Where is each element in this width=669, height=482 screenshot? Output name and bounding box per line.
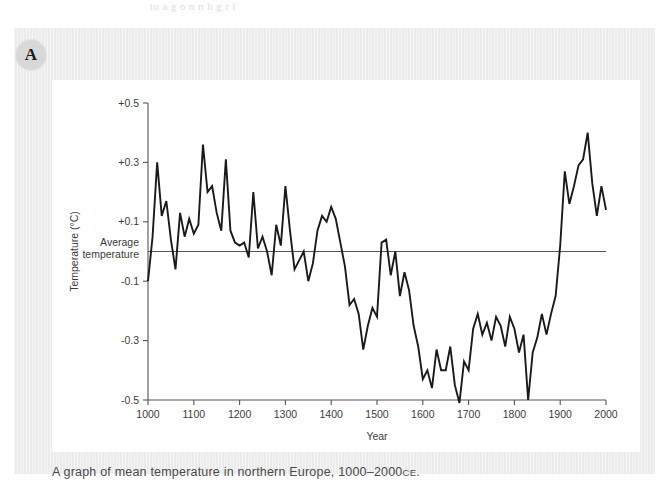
temperature-series-line [148,133,606,403]
average-temperature-annotation-line1: Average [100,236,139,248]
y-axis-tick-label: +0.3 [118,156,139,168]
y-axis-tick-label: +0.5 [118,97,139,109]
x-axis-title: Year [366,430,388,442]
figure-caption-period: . [416,465,420,479]
x-axis-tick-labels: 1000110012001300140015001600170018001900… [136,408,618,420]
x-axis-tick-label: 1300 [274,408,298,420]
average-temperature-annotation-line2: temperature [82,248,139,260]
x-axis-tick-label: 1600 [411,408,435,420]
chart-card: +0.5+0.3+0.1-0.1-0.3-0.5 100011001200130… [52,80,640,452]
y-axis-tick-label: -0.5 [121,394,139,406]
x-axis-tick-label: 1200 [228,408,252,420]
x-axis-tick-label: 1400 [320,408,344,420]
panel-badge-letter: A [16,40,46,70]
y-axis-title: Temperature (°C) [68,211,80,292]
y-axis-ticks [143,103,148,400]
y-axis-tick-label: +0.1 [118,215,139,227]
x-axis-tick-label: 1000 [136,408,160,420]
x-axis-tick-label: 2000 [594,408,618,420]
x-axis-tick-label: 1800 [503,408,527,420]
x-axis-ticks [148,400,606,405]
chart-plot-group: +0.5+0.3+0.1-0.1-0.3-0.5 100011001200130… [68,97,618,442]
page-bleed-text: to a g o n n h g r i [150,0,530,14]
y-axis-tick-label: -0.1 [121,275,139,287]
figure-caption-text: A graph of mean temperature in northern … [52,465,403,479]
y-axis-tick-label: -0.3 [121,334,139,346]
x-axis-tick-label: 1700 [457,408,481,420]
figure-caption-era: CE [403,467,417,478]
x-axis-tick-label: 1900 [549,408,573,420]
x-axis-tick-label: 1500 [365,408,389,420]
figure-caption: A graph of mean temperature in northern … [52,465,612,479]
temperature-line-chart: +0.5+0.3+0.1-0.1-0.3-0.5 100011001200130… [52,80,640,452]
x-axis-tick-label: 1100 [183,408,206,420]
figure-panel: A +0.5+0.3+0.1-0.1-0.3-0.5 1000110012001… [14,28,655,474]
